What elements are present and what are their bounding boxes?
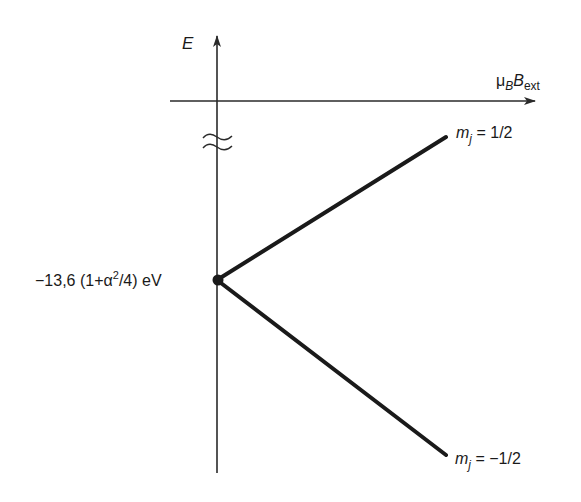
zeeman-diagram: E μBBext −13,6 (1+α2/4) eV mj = 1/2 mj =… (0, 0, 581, 502)
level-line-upper (217, 137, 446, 280)
y-axis-label: E (182, 34, 194, 53)
origin-energy-label: −13,6 (1+α2/4) eV (35, 269, 162, 289)
origin-point (213, 275, 224, 286)
level-label-lower: mj = −1/2 (455, 450, 521, 472)
level-line-lower (217, 280, 446, 455)
x-axis-label: μBBext (496, 72, 541, 93)
level-label-upper: mj = 1/2 (456, 124, 513, 146)
